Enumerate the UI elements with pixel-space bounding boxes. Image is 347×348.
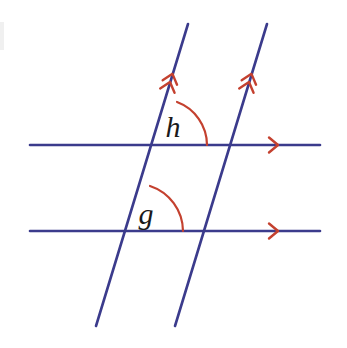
geometry-canvas: h g bbox=[0, 0, 347, 348]
angle-arc-g bbox=[150, 186, 183, 231]
angle-label-h: h bbox=[166, 110, 181, 143]
scan-artifact bbox=[0, 22, 4, 50]
angle-arc-h bbox=[177, 102, 207, 145]
geometry-diagram: h g bbox=[0, 0, 347, 348]
angle-label-g: g bbox=[139, 197, 154, 230]
right-transversal-line bbox=[175, 24, 267, 326]
left-transversal-line bbox=[96, 24, 188, 326]
